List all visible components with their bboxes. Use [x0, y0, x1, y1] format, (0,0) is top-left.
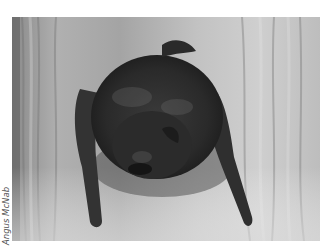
bat-photo — [12, 17, 320, 241]
bat-on-bark-image — [12, 17, 320, 241]
photo-credit: Angus McNab — [1, 187, 11, 245]
